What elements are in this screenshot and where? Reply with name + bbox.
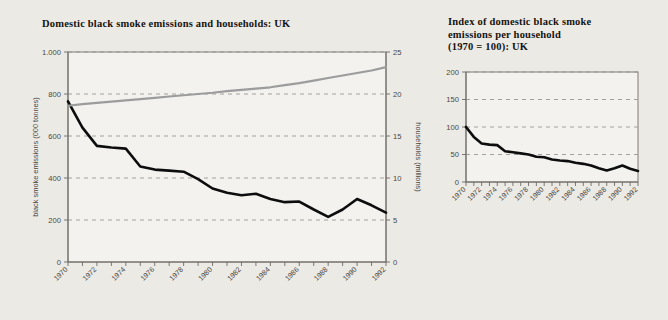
y-axis-tick-label: 0 <box>57 258 61 267</box>
y2-axis-tick-label: 15 <box>393 132 401 141</box>
y2-axis-tick-label: 25 <box>393 48 401 57</box>
y2-axis-tick-label: 5 <box>393 216 397 225</box>
plot-area-background <box>68 52 386 262</box>
x-axis-tick-label: 1980 <box>196 265 214 283</box>
y-axis-tick-label: 600 <box>48 132 61 141</box>
left-chart-svg: 02004006008001.0000510152025197019721974… <box>0 0 430 320</box>
x-axis-tick-label: 1984 <box>559 185 577 203</box>
x-axis-tick-label: 1980 <box>528 185 546 203</box>
y-axis-tick-label: 200 <box>48 216 61 225</box>
x-axis-tick-label: 1982 <box>225 265 243 283</box>
left-chart-panel: Domestic black smoke emissions and house… <box>0 0 430 320</box>
x-axis-tick-label: 1974 <box>481 185 499 203</box>
y-axis-title: black smoke emissions (000 tonnes) <box>31 97 40 217</box>
left-chart-title: Domestic black smoke emissions and house… <box>42 18 372 31</box>
x-axis-tick-label: 1970 <box>52 265 70 283</box>
figure-page: Domestic black smoke emissions and house… <box>0 0 668 320</box>
y-axis-tick-label: 200 <box>446 68 459 77</box>
y2-axis-tick-label: 20 <box>393 90 401 99</box>
y2-axis-tick-label: 0 <box>393 258 397 267</box>
x-axis-tick-label: 1986 <box>283 265 301 283</box>
y-axis-tick-label: 1.000 <box>42 48 61 57</box>
x-axis-tick-label: 1972 <box>465 185 483 203</box>
y-axis-tick-label: 0 <box>455 178 459 187</box>
y-axis-tick-label: 400 <box>48 174 61 183</box>
y-axis-tick-label: 150 <box>446 95 459 104</box>
x-axis-tick-label: 1978 <box>167 265 185 283</box>
x-axis-tick-label: 1976 <box>497 185 515 203</box>
x-axis-tick-label: 1982 <box>544 185 562 203</box>
x-axis-tick-label: 1984 <box>254 265 272 283</box>
x-axis-tick-label: 1992 <box>370 265 388 283</box>
x-axis-tick-label: 1990 <box>606 185 624 203</box>
x-axis-tick-label: 1974 <box>110 265 128 283</box>
x-axis-tick-label: 1992 <box>622 185 640 203</box>
y2-axis-tick-label: 10 <box>393 174 401 183</box>
x-axis-tick-label: 1978 <box>512 185 530 203</box>
right-chart-panel: Index of domestic black smoke emissions … <box>430 0 668 320</box>
x-axis-tick-label: 1988 <box>590 185 608 203</box>
y-axis-tick-label: 100 <box>446 123 459 132</box>
x-axis-tick-label: 1988 <box>312 265 330 283</box>
x-axis-tick-label: 1990 <box>341 265 359 283</box>
right-chart-title: Index of domestic black smoke emissions … <box>448 16 658 54</box>
y2-axis-title: households (millions) <box>414 122 423 191</box>
y-axis-tick-label: 50 <box>451 150 459 159</box>
y-axis-tick-label: 800 <box>48 90 61 99</box>
x-axis-tick-label: 1986 <box>575 185 593 203</box>
x-axis-tick-label: 1972 <box>81 265 99 283</box>
x-axis-tick-label: 1976 <box>138 265 156 283</box>
x-axis-tick-label: 1970 <box>450 185 468 203</box>
